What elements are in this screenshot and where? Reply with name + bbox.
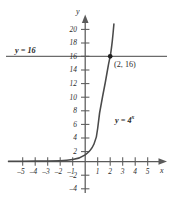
x-tick-label-4: 4 bbox=[133, 168, 137, 175]
x-tick-label-minus-5: –5 bbox=[17, 168, 24, 175]
x-axis-arrow bbox=[159, 158, 168, 165]
x-tick-label-3: 3 bbox=[121, 168, 125, 175]
horizontal-line-label: y = 16 bbox=[15, 47, 36, 55]
x-tick-label-minus-1: –1 bbox=[67, 168, 74, 175]
y-axis-label: y bbox=[76, 8, 80, 16]
intersection-point-label: (2, 16) bbox=[114, 61, 136, 69]
curve-label-text: y = 4x bbox=[115, 116, 134, 125]
x-tick-label-2: 2 bbox=[108, 168, 112, 175]
exponential-curve bbox=[9, 24, 114, 161]
y-tick-label-4: 4 bbox=[73, 134, 77, 141]
y-tick-label-minus-4: –4 bbox=[70, 185, 77, 192]
y-tick-label-8: 8 bbox=[73, 107, 77, 114]
y-tick-label-2: 2 bbox=[73, 148, 77, 155]
x-tick-label-minus-4: –4 bbox=[30, 168, 37, 175]
x-axis-label: x bbox=[160, 167, 164, 175]
y-tick-label-6: 6 bbox=[73, 121, 77, 128]
y-tick-label-10: 10 bbox=[70, 94, 77, 101]
y-tick-label-16: 16 bbox=[70, 53, 77, 60]
x-tick-label-5: 5 bbox=[146, 168, 150, 175]
x-tick-label-1: 1 bbox=[96, 168, 100, 175]
exponential-curve-label: y = 4x bbox=[115, 117, 134, 125]
y-tick-label-18: 18 bbox=[70, 39, 77, 46]
y-tick-label-20: 20 bbox=[70, 26, 77, 33]
y-axis-arrow bbox=[82, 15, 89, 24]
exponential-function-graph: 20 18 16 14 12 10 8 6 4 2 –2 –4 –5 –4 –3… bbox=[0, 0, 173, 199]
y-tick-label-14: 14 bbox=[70, 66, 77, 73]
intersection-point-marker bbox=[108, 54, 113, 59]
x-tick-label-minus-2: –2 bbox=[55, 168, 62, 175]
x-tick-label-minus-3: –3 bbox=[42, 168, 49, 175]
y-tick-label-12: 12 bbox=[70, 80, 77, 87]
